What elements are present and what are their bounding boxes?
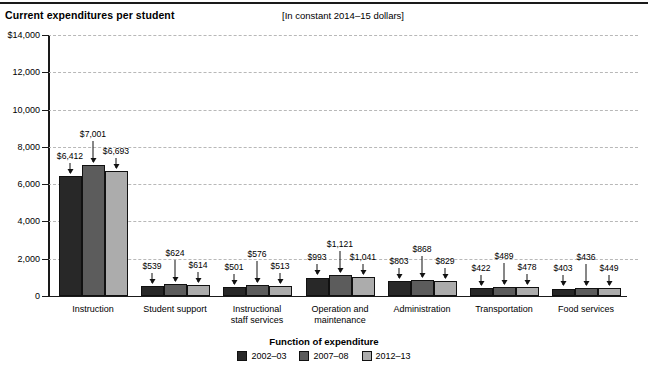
chart-units-note: [In constant 2014–15 dollars] <box>282 10 404 21</box>
bar-value-label: $539 <box>142 262 161 271</box>
bar <box>552 289 575 297</box>
x-axis-category-label: Food services <box>531 304 641 315</box>
y-axis-tick-label: 4,000 <box>0 216 40 226</box>
bar-value-label: $6,412 <box>57 152 83 161</box>
y-axis-tick-label: $14,000 <box>0 30 40 40</box>
chart-figure: Current expenditures per student [In con… <box>0 0 648 367</box>
value-pointer-arrow-icon <box>280 273 281 283</box>
bar-value-label: $868 <box>412 245 431 254</box>
bar-value-label: $993 <box>307 253 326 262</box>
bar <box>105 171 128 296</box>
bar <box>306 278 329 297</box>
value-pointer-arrow-icon <box>175 260 176 281</box>
legend-item[interactable]: 2012–13 <box>362 351 411 361</box>
bar-value-label: $403 <box>553 264 572 273</box>
bar-value-label: $7,001 <box>80 130 106 139</box>
legend-swatch-icon <box>362 351 372 361</box>
value-pointer-arrow-icon <box>586 264 587 285</box>
value-pointer-arrow-icon <box>481 275 482 285</box>
bar-value-label: $501 <box>224 263 243 272</box>
y-axis-tick-label: 0 <box>0 291 40 301</box>
bar <box>598 288 621 296</box>
y-axis-tick <box>42 221 49 222</box>
chart-legend: 2002–032007–082012–13 <box>0 351 648 361</box>
value-pointer-arrow-icon <box>422 256 423 277</box>
bar <box>516 287 539 296</box>
bar <box>575 288 598 296</box>
bar <box>223 287 246 296</box>
legend-item[interactable]: 2002–03 <box>237 351 286 361</box>
bar <box>411 280 434 296</box>
y-axis-tick <box>42 259 49 260</box>
bar <box>470 288 493 296</box>
bar-value-label: $436 <box>576 253 595 262</box>
legend-label: 2007–08 <box>313 351 348 361</box>
x-axis-baseline <box>48 296 627 297</box>
bar <box>352 277 375 296</box>
y-axis-tick-label: 6,000 <box>0 179 40 189</box>
value-pointer-arrow-icon <box>116 158 117 168</box>
legend-swatch-icon <box>237 351 247 361</box>
legend-swatch-icon <box>299 351 309 361</box>
bar-value-label: $489 <box>494 252 513 261</box>
bar-value-label: $803 <box>389 257 408 266</box>
bar-value-label: $6,693 <box>103 147 129 156</box>
value-pointer-arrow-icon <box>152 273 153 283</box>
y-axis-line <box>48 35 50 297</box>
y-axis-tick-label: 12,000 <box>0 67 40 77</box>
bar-value-label: $576 <box>247 250 266 259</box>
value-pointer-arrow-icon <box>609 275 610 285</box>
bar-value-label: $829 <box>435 257 454 266</box>
gridline <box>48 259 638 260</box>
bar-value-label: $1,121 <box>327 240 353 249</box>
gridline <box>48 221 638 222</box>
bar <box>141 286 164 296</box>
legend-label: 2002–03 <box>251 351 286 361</box>
gridline <box>48 184 638 185</box>
bar <box>269 286 292 296</box>
value-pointer-arrow-icon <box>527 274 528 284</box>
y-axis-tick <box>42 72 49 73</box>
y-axis-tick <box>42 296 49 297</box>
bar-value-label: $478 <box>517 263 536 272</box>
legend-item[interactable]: 2007–08 <box>299 351 348 361</box>
bar-value-label: $614 <box>188 261 207 270</box>
y-axis-tick <box>42 35 49 36</box>
bar <box>164 284 187 296</box>
value-pointer-arrow-icon <box>340 251 341 272</box>
value-pointer-arrow-icon <box>257 261 258 282</box>
value-pointer-arrow-icon <box>234 274 235 284</box>
value-pointer-arrow-icon <box>70 163 71 173</box>
bar-value-label: $449 <box>599 264 618 273</box>
bar <box>388 281 411 296</box>
bar-value-label: $513 <box>270 262 289 271</box>
bar <box>434 281 457 296</box>
value-pointer-arrow-icon <box>563 275 564 285</box>
value-pointer-arrow-icon <box>445 268 446 278</box>
bar <box>82 165 105 296</box>
gridline <box>48 110 638 111</box>
y-axis-tick <box>42 184 49 185</box>
x-axis-title: Function of expenditure <box>0 336 648 347</box>
chart-title: Current expenditures per student <box>5 9 174 21</box>
value-pointer-arrow-icon <box>93 141 94 162</box>
top-divider-rule <box>0 2 648 4</box>
gridline <box>48 147 638 148</box>
bar <box>246 285 269 296</box>
value-pointer-arrow-icon <box>198 272 199 282</box>
legend-label: 2012–13 <box>376 351 411 361</box>
bar <box>187 285 210 296</box>
y-axis-tick-label: 8,000 <box>0 142 40 152</box>
bar-value-label: $1,041 <box>350 253 376 262</box>
bar-value-label: $422 <box>471 264 490 273</box>
value-pointer-arrow-icon <box>363 264 364 274</box>
y-axis-tick <box>42 147 49 148</box>
bar <box>493 287 516 296</box>
gridline <box>48 35 638 36</box>
y-axis-tick-label: 10,000 <box>0 105 40 115</box>
y-axis-tick-label: 2,000 <box>0 254 40 264</box>
value-pointer-arrow-icon <box>317 264 318 274</box>
value-pointer-arrow-icon <box>399 268 400 278</box>
bar <box>59 176 82 296</box>
gridline <box>48 72 638 73</box>
